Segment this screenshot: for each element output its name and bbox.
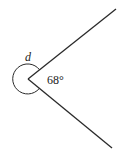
upper-ray bbox=[28, 9, 116, 79]
angle-diagram: d 68° bbox=[0, 0, 122, 158]
lower-ray bbox=[28, 79, 112, 148]
reflex-angle-label: d bbox=[25, 50, 32, 64]
reflex-angle-arc bbox=[13, 64, 40, 94]
interior-angle-label: 68° bbox=[47, 73, 64, 87]
